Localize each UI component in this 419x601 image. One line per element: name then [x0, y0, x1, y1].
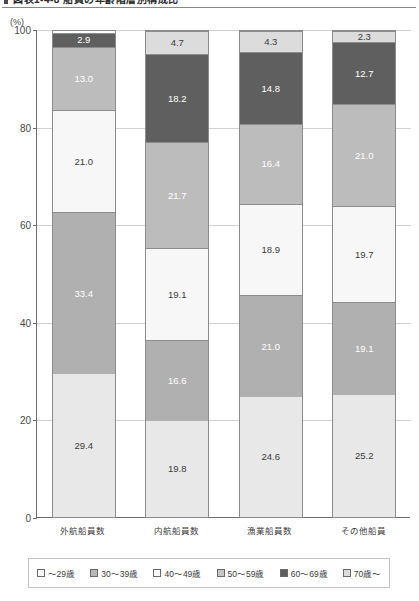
bar-segment[interactable]: 21.7 [146, 142, 208, 247]
bar-segment-value: 4.7 [171, 38, 184, 48]
legend-label: 30～39歳 [101, 567, 138, 579]
legend-label: 40～49歳 [164, 567, 201, 579]
stacked-bar[interactable]: 25.219.119.721.012.72.3 [332, 30, 396, 518]
bar-segment[interactable]: 21.0 [240, 295, 302, 397]
x-axis-label: 外航船員数 [51, 524, 115, 542]
bar-segment[interactable]: 13.0 [53, 47, 115, 110]
legend-swatch-icon [153, 569, 161, 577]
legend-item[interactable]: 70歳～ [343, 567, 381, 579]
bar-segment-value: 19.8 [168, 464, 187, 474]
legend-item[interactable]: 50～59歳 [217, 567, 265, 579]
bar-segment-value: 29.4 [75, 441, 94, 451]
title-divider [2, 7, 416, 8]
legend-label: 50～59歳 [228, 567, 265, 579]
legend-swatch-icon [90, 569, 98, 577]
bar-segment[interactable]: 19.1 [333, 302, 395, 395]
bar-segment[interactable]: 12.7 [333, 42, 395, 104]
bar-segment[interactable]: 16.6 [146, 340, 208, 421]
bar-segment-value: 19.1 [355, 344, 374, 354]
legend-label: 70歳～ [354, 567, 381, 579]
plot-area: 100806040200 29.433.421.013.02.919.816.6… [36, 30, 410, 518]
bar-segment[interactable]: 24.6 [240, 397, 302, 517]
stacked-bar[interactable]: 19.816.619.121.718.24.7 [145, 30, 209, 518]
bar-segment[interactable]: 18.2 [146, 54, 208, 142]
y-axis-tick-label: 100 [14, 25, 31, 36]
bar-segment-value: 16.4 [262, 159, 281, 169]
y-axis-tick [33, 518, 37, 519]
gridline [37, 518, 411, 519]
chart-legend: ～29歳30～39歳40～49歳50～59歳60～69歳70歳～ [28, 558, 390, 588]
page-title: 図表1-4-8 船員の年齢階層別構成比 [13, 0, 179, 5]
bar-segment-value: 24.6 [262, 452, 281, 462]
bar-segment[interactable]: 29.4 [53, 374, 115, 517]
legend-item[interactable]: 40～49歳 [153, 567, 201, 579]
bar-segment-value: 4.3 [264, 37, 277, 47]
bar-segment-value: 33.4 [75, 289, 94, 299]
bar-segment[interactable]: 21.0 [333, 104, 395, 206]
legend-item[interactable]: 30～39歳 [90, 567, 138, 579]
bar-segment[interactable]: 21.0 [53, 110, 115, 212]
x-axis-label: 内航船員数 [144, 524, 208, 542]
bar-segment-value: 21.0 [355, 151, 374, 161]
bar-segment[interactable]: 19.1 [146, 248, 208, 341]
bar-segment-value: 25.2 [355, 451, 374, 461]
bar-segment[interactable]: 14.8 [240, 52, 302, 124]
y-axis-tick-label: 0 [25, 513, 31, 524]
bar-segment-value: 16.6 [168, 376, 187, 386]
bar-segment[interactable]: 4.7 [146, 31, 208, 54]
bar-segment-value: 21.0 [262, 342, 281, 352]
bar-segment[interactable]: 2.3 [333, 31, 395, 42]
bar-segment-value: 13.0 [75, 74, 94, 84]
bar-segment-value: 2.9 [77, 35, 90, 45]
chart-page: 図表1-4-8 船員の年齢階層別構成比 (%) 100806040200 29.… [0, 0, 419, 601]
bar-segment[interactable]: 2.9 [53, 33, 115, 47]
bar-segment[interactable]: 25.2 [333, 395, 395, 517]
bar-column: 25.219.119.721.012.72.3 [332, 30, 396, 518]
bar-segment-value: 12.7 [355, 69, 374, 79]
y-axis-tick-label: 40 [20, 317, 31, 328]
bar-segment-value: 21.7 [168, 191, 187, 201]
legend-label: ～29歳 [48, 567, 75, 579]
bar-segment[interactable]: 19.8 [146, 421, 208, 517]
bar-column: 24.621.018.916.414.84.3 [239, 30, 303, 518]
legend-label: 60～69歳 [291, 567, 328, 579]
bar-segment[interactable]: 16.4 [240, 124, 302, 204]
bar-segment-value: 2.3 [358, 32, 371, 42]
y-axis-tick-label: 20 [20, 415, 31, 426]
bar-segment-value: 21.0 [75, 157, 94, 167]
legend-swatch-icon [280, 569, 288, 577]
legend-swatch-icon [37, 569, 45, 577]
bar-segment[interactable]: 33.4 [53, 212, 115, 374]
bar-segment-value: 19.7 [355, 250, 374, 260]
bar-segment-value: 18.9 [262, 245, 281, 255]
bar-column: 29.433.421.013.02.9 [52, 30, 116, 518]
legend-item[interactable]: ～29歳 [37, 567, 75, 579]
x-axis-label: その他船員 [331, 524, 395, 542]
bar-segment[interactable]: 18.9 [240, 204, 302, 296]
title-accent-bar [4, 0, 8, 4]
stacked-bar[interactable]: 29.433.421.013.02.9 [52, 30, 116, 518]
legend-item[interactable]: 60～69歳 [280, 567, 328, 579]
legend-swatch-icon [343, 569, 351, 577]
y-axis-tick-label: 60 [20, 220, 31, 231]
stacked-bar[interactable]: 24.621.018.916.414.84.3 [239, 30, 303, 518]
bar-segment[interactable]: 4.3 [240, 31, 302, 52]
x-axis-label-group: 外航船員数内航船員数漁業船員数その他船員 [36, 524, 410, 542]
chart-title-bar: 図表1-4-8 船員の年齢階層別構成比 [0, 0, 419, 5]
bar-column: 19.816.619.121.718.24.7 [145, 30, 209, 518]
bar-group: 29.433.421.013.02.919.816.619.121.718.24… [37, 30, 411, 518]
bar-segment-value: 14.8 [262, 84, 281, 94]
legend-swatch-icon [217, 569, 225, 577]
y-axis-tick-label: 80 [20, 122, 31, 133]
x-axis-label: 漁業船員数 [238, 524, 302, 542]
bar-segment-value: 19.1 [168, 290, 187, 300]
bar-segment[interactable]: 19.7 [333, 206, 395, 302]
bar-segment-value: 18.2 [168, 94, 187, 104]
